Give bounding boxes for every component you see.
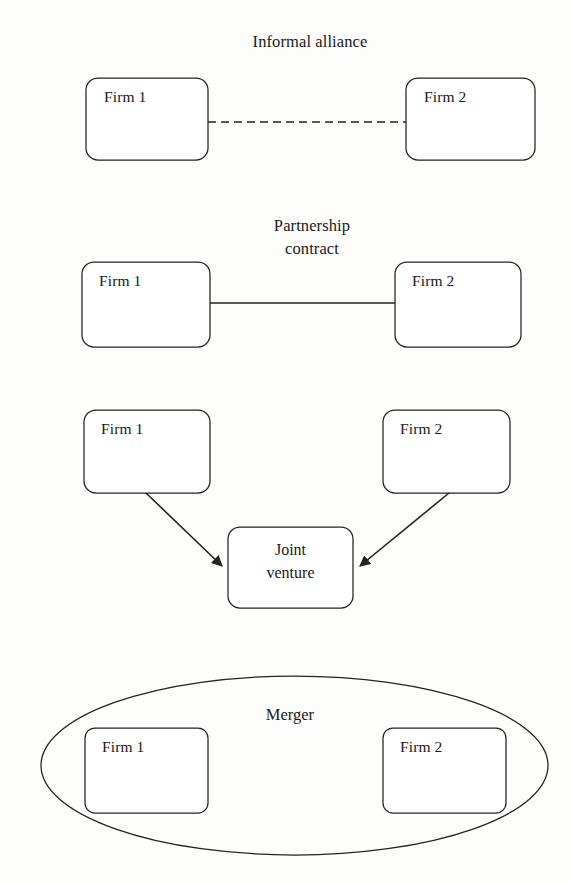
node-label-joint-venture-line-1: Joint bbox=[228, 539, 353, 562]
panel-partnership-contract bbox=[82, 262, 521, 347]
box-label-firm-2: Firm 2 bbox=[412, 273, 454, 290]
panel-informal-alliance bbox=[86, 78, 535, 160]
arrow-firm-2-to-joint-venture bbox=[360, 493, 449, 566]
panel-title-partnership-contract-line-2: contract bbox=[212, 238, 412, 261]
box-label-firm-1: Firm 1 bbox=[102, 739, 144, 756]
box-label-firm-2: Firm 2 bbox=[400, 739, 442, 756]
panel-title-informal-alliance: Informal alliance bbox=[170, 33, 450, 51]
box-label-firm-2: Firm 2 bbox=[400, 421, 442, 438]
enclosure-label-merger: Merger bbox=[200, 706, 380, 724]
figure-canvas: Informal alliance Firm 1 Firm 2 Partners… bbox=[0, 0, 570, 883]
box-label-firm-2: Firm 2 bbox=[424, 89, 466, 106]
panel-title-partnership-contract-line-1: Partnership bbox=[212, 215, 412, 238]
node-label-joint-venture-line-2: venture bbox=[228, 562, 353, 585]
box-label-firm-1: Firm 1 bbox=[99, 273, 141, 290]
arrow-firm-1-to-joint-venture bbox=[146, 493, 222, 566]
panel-merger bbox=[41, 676, 548, 855]
box-label-firm-1: Firm 1 bbox=[104, 89, 146, 106]
diagram-vector-layer bbox=[0, 0, 570, 883]
box-label-firm-1: Firm 1 bbox=[101, 421, 143, 438]
